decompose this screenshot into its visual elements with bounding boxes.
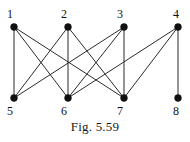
- edges-group: [14, 27, 178, 98]
- vertex-label-7: 7: [117, 104, 123, 118]
- figure-caption: Fig. 5.59: [0, 119, 190, 135]
- vertex-label-4: 4: [173, 7, 179, 21]
- graph-edge-4-7: [124, 27, 178, 98]
- vertex-label-6: 6: [61, 104, 67, 118]
- vertex-labels-group: 12345678: [7, 7, 179, 118]
- graph-vertex-5: [11, 95, 18, 102]
- graph-vertex-7: [121, 95, 128, 102]
- figure-container: 12345678 Fig. 5.59: [0, 0, 190, 142]
- vertex-label-5: 5: [7, 104, 13, 118]
- graph-vertex-4: [175, 24, 182, 31]
- graph-vertex-1: [11, 24, 18, 31]
- graph-vertex-3: [121, 24, 128, 31]
- graph-vertex-8: [175, 95, 182, 102]
- vertex-label-3: 3: [117, 7, 123, 21]
- vertex-label-8: 8: [173, 104, 179, 118]
- graph-vertex-6: [65, 95, 72, 102]
- graph-edge-4-6: [68, 27, 178, 98]
- graph-vertex-2: [65, 24, 72, 31]
- vertex-label-1: 1: [7, 7, 13, 21]
- vertex-label-2: 2: [61, 7, 67, 21]
